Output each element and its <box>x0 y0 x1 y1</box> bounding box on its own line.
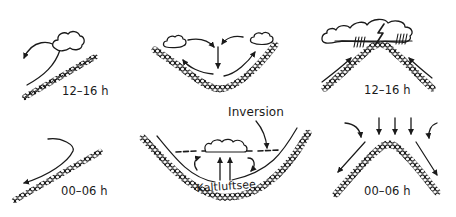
panel-ridge-night <box>336 118 437 194</box>
cloud-right <box>250 33 273 45</box>
thunderstorm-cloud <box>322 19 412 43</box>
inversion-pointer-arrow <box>256 121 267 148</box>
stratus-cloud <box>205 139 247 152</box>
ground-valley <box>155 45 275 89</box>
cumulus-cloud <box>53 32 85 51</box>
eddy-arrow-left <box>195 157 200 170</box>
time-label-slope-night: 00–06 h <box>61 184 108 198</box>
time-label-slope-day: 12–16 h <box>62 84 109 98</box>
cloud-left <box>163 36 186 48</box>
convergence-arrow-right <box>222 36 243 44</box>
eddy-arrow-right <box>248 158 254 171</box>
inversion-label: Inversion <box>228 105 284 119</box>
panel-ridge-day <box>322 19 432 88</box>
convergence-arrow-left <box>188 39 214 47</box>
curving-arrow-right <box>429 123 437 138</box>
ground-ridge <box>325 44 432 88</box>
panel-valley-day <box>155 33 275 89</box>
downslope-wind-arrow <box>24 139 73 183</box>
time-label-ridge-night: 00–06 h <box>364 184 411 198</box>
time-label-ridge-day: 12–16 h <box>364 83 411 97</box>
curving-arrow-left <box>345 123 361 137</box>
